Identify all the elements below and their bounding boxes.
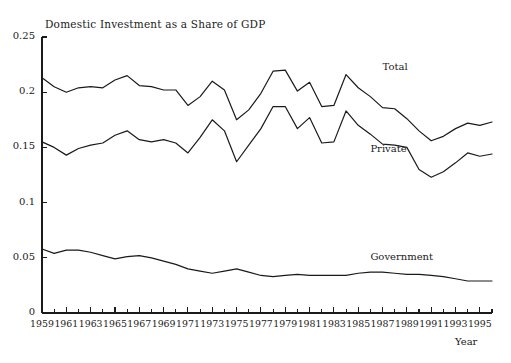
series-label-private: Private [370,143,406,154]
series-label-government: Government [370,251,433,262]
x-axis-tick-label: 1995 [462,318,498,329]
y-axis-tick-label: 0.2 [0,85,35,96]
y-axis-tick-label: 0.05 [0,251,35,262]
series-label-total: Total [383,61,408,72]
plot-area [0,0,511,363]
y-axis-tick-label: 0 [0,306,35,317]
y-axis-tick-label: 0.25 [0,30,35,41]
series-line-total [42,70,492,141]
y-axis-tick-label: 0.1 [0,196,35,207]
x-axis-title: Year [455,336,477,347]
y-axis-tick-label: 0.15 [0,140,35,151]
chart-container: Domestic Investment as a Share of GDP Ye… [0,0,511,363]
series-line-private [42,107,492,178]
